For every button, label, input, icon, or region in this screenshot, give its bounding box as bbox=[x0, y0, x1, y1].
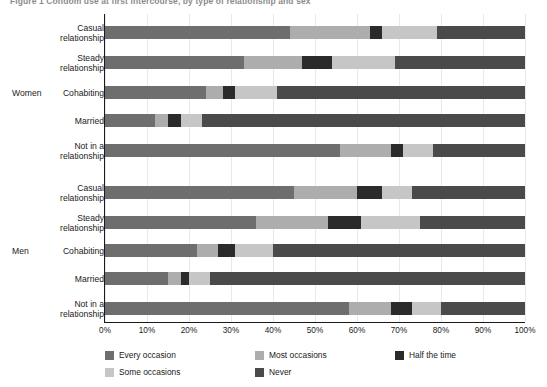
bar-women-2 bbox=[105, 86, 525, 99]
category-label: Married bbox=[20, 274, 104, 284]
bar-segment-some-occasions bbox=[382, 26, 437, 39]
bar-segment-never bbox=[202, 114, 525, 127]
bar-segment-half-the-time bbox=[370, 26, 383, 39]
bar-segment-every-occasion bbox=[105, 56, 244, 69]
category-label: Not in arelationship bbox=[20, 141, 104, 162]
bar-segment-half-the-time bbox=[391, 302, 412, 315]
bar-segment-every-occasion bbox=[105, 144, 340, 157]
category-label: Married bbox=[20, 116, 104, 126]
bar-segment-most-occasions bbox=[294, 186, 357, 199]
gridline bbox=[525, 14, 526, 322]
category-label: Not in arelationship bbox=[20, 299, 104, 320]
legend-label: Every occasion bbox=[119, 350, 176, 360]
bar-women-3 bbox=[105, 114, 525, 127]
x-axis-line bbox=[104, 322, 525, 323]
x-tick-label: 50% bbox=[295, 326, 335, 335]
bar-segment-every-occasion bbox=[105, 216, 256, 229]
bar-segment-most-occasions bbox=[340, 144, 390, 157]
bar-segment-every-occasion bbox=[105, 86, 206, 99]
plot-area bbox=[105, 14, 525, 322]
x-tick-label: 20% bbox=[169, 326, 209, 335]
x-tick-label: 10% bbox=[127, 326, 167, 335]
figure-title: Figure 1 Condom use at first intercourse… bbox=[10, 0, 311, 6]
bar-segment-some-occasions bbox=[403, 144, 432, 157]
legend-swatch-icon bbox=[105, 368, 114, 377]
bar-segment-every-occasion bbox=[105, 244, 197, 257]
bar-segment-some-occasions bbox=[235, 86, 277, 99]
bar-segment-half-the-time bbox=[181, 272, 189, 285]
bar-segment-some-occasions bbox=[189, 272, 210, 285]
bar-segment-some-occasions bbox=[382, 186, 411, 199]
bar-segment-half-the-time bbox=[302, 56, 331, 69]
bar-segment-most-occasions bbox=[168, 272, 181, 285]
legend-swatch-icon bbox=[395, 351, 404, 360]
bar-segment-never bbox=[210, 272, 525, 285]
bar-segment-some-occasions bbox=[181, 114, 202, 127]
legend-item-never: Never bbox=[255, 367, 291, 377]
bar-women-4 bbox=[105, 144, 525, 157]
legend-swatch-icon bbox=[255, 351, 264, 360]
bar-segment-half-the-time bbox=[391, 144, 404, 157]
bar-segment-every-occasion bbox=[105, 302, 349, 315]
x-tick-label: 70% bbox=[379, 326, 419, 335]
x-tick-label: 60% bbox=[337, 326, 377, 335]
bar-men-5 bbox=[105, 186, 525, 199]
bar-women-0 bbox=[105, 26, 525, 39]
bar-segment-most-occasions bbox=[206, 86, 223, 99]
bar-segment-every-occasion bbox=[105, 272, 168, 285]
group-label-women: Women bbox=[12, 88, 68, 98]
legend-swatch-icon bbox=[255, 368, 264, 377]
bar-segment-never bbox=[437, 26, 525, 39]
bar-segment-some-occasions bbox=[332, 56, 395, 69]
legend-label: Most occasions bbox=[269, 350, 327, 360]
bar-segment-most-occasions bbox=[244, 56, 303, 69]
bar-segment-half-the-time bbox=[357, 186, 382, 199]
bar-segment-never bbox=[441, 302, 525, 315]
bar-segment-most-occasions bbox=[155, 114, 168, 127]
bar-men-6 bbox=[105, 216, 525, 229]
legend-label: Never bbox=[269, 367, 291, 377]
legend-item-most-occasions: Most occasions bbox=[255, 350, 327, 360]
bar-men-8 bbox=[105, 272, 525, 285]
group-label-men: Men bbox=[12, 246, 68, 256]
bar-segment-every-occasion bbox=[105, 26, 290, 39]
bar-segment-most-occasions bbox=[197, 244, 218, 257]
bar-women-1 bbox=[105, 56, 525, 69]
legend-swatch-icon bbox=[105, 351, 114, 360]
category-labels: CasualrelationshipSteadyrelationshipCoha… bbox=[8, 14, 104, 324]
chart-legend: Every occasionMost occasionsHalf the tim… bbox=[105, 350, 525, 382]
legend-item-every-occasion: Every occasion bbox=[105, 350, 176, 360]
x-tick-label: 80% bbox=[421, 326, 461, 335]
category-label: Casualrelationship bbox=[20, 23, 104, 44]
bar-men-9 bbox=[105, 302, 525, 315]
bar-segment-most-occasions bbox=[290, 26, 370, 39]
x-tick-label: 100% bbox=[505, 326, 545, 335]
bar-segment-most-occasions bbox=[349, 302, 391, 315]
bar-segment-half-the-time bbox=[328, 216, 362, 229]
bar-segment-most-occasions bbox=[256, 216, 327, 229]
category-label: Casualrelationship bbox=[20, 183, 104, 204]
legend-item-half-the-time: Half the time bbox=[395, 350, 456, 360]
category-label: Steadyrelationship bbox=[20, 213, 104, 234]
bar-segment-half-the-time bbox=[223, 86, 236, 99]
bar-segment-some-occasions bbox=[361, 216, 420, 229]
figure-container: Figure 1 Condom use at first intercourse… bbox=[0, 0, 547, 387]
bar-segment-never bbox=[277, 86, 525, 99]
x-tick-label: 90% bbox=[463, 326, 503, 335]
legend-label: Some occasions bbox=[119, 367, 180, 377]
bar-men-7 bbox=[105, 244, 525, 257]
bar-segment-some-occasions bbox=[235, 244, 273, 257]
bar-segment-some-occasions bbox=[412, 302, 441, 315]
bar-segment-half-the-time bbox=[168, 114, 181, 127]
figure-title-strip: Figure 1 Condom use at first intercourse… bbox=[0, 0, 547, 9]
category-label: Steadyrelationship bbox=[20, 53, 104, 74]
bar-segment-every-occasion bbox=[105, 114, 155, 127]
bar-segment-never bbox=[273, 244, 525, 257]
bar-segment-never bbox=[395, 56, 525, 69]
x-tick-label: 30% bbox=[211, 326, 251, 335]
x-tick-label: 0% bbox=[85, 326, 125, 335]
bar-segment-never bbox=[433, 144, 525, 157]
legend-label: Half the time bbox=[409, 350, 456, 360]
bar-segment-never bbox=[412, 186, 525, 199]
bar-segment-every-occasion bbox=[105, 186, 294, 199]
